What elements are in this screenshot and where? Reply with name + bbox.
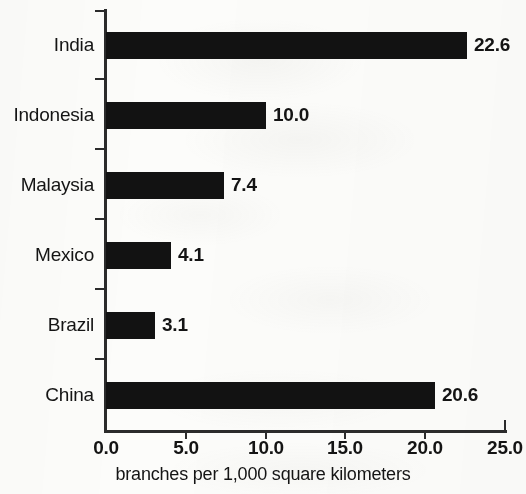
category-label-malaysia: Malaysia bbox=[21, 174, 94, 196]
bar-india bbox=[106, 32, 467, 59]
bar-brazil bbox=[106, 312, 155, 339]
y-axis-tick bbox=[95, 358, 105, 360]
x-axis-tick-label: 15.0 bbox=[327, 437, 363, 459]
x-axis-tick-label: 20.0 bbox=[407, 437, 443, 459]
y-axis-tick bbox=[95, 78, 105, 80]
bar-malaysia bbox=[106, 172, 224, 199]
bar-value-label: 10.0 bbox=[273, 104, 309, 126]
category-label-mexico: Mexico bbox=[35, 244, 94, 266]
bar-mexico bbox=[106, 242, 171, 269]
bar-value-label: 20.6 bbox=[442, 384, 478, 406]
x-axis-tick-label: 0.0 bbox=[93, 437, 119, 459]
x-axis-title: branches per 1,000 square kilometers bbox=[0, 464, 526, 485]
y-axis-tick bbox=[95, 148, 105, 150]
bar-value-label: 4.1 bbox=[178, 244, 204, 266]
category-label-brazil: Brazil bbox=[48, 314, 94, 336]
bar-value-label: 7.4 bbox=[231, 174, 257, 196]
category-label-indonesia: Indonesia bbox=[13, 104, 94, 126]
y-axis-tick bbox=[95, 10, 105, 12]
x-axis-tick bbox=[504, 420, 506, 431]
y-axis-tick bbox=[95, 218, 105, 220]
y-axis-tick bbox=[95, 288, 105, 290]
category-label-china: China bbox=[45, 384, 94, 406]
bar-chart-figure: 22.6India10.0Indonesia7.4Malaysia4.1Mexi… bbox=[0, 0, 526, 494]
bar-china bbox=[106, 382, 435, 409]
plot-area: 22.6India10.0Indonesia7.4Malaysia4.1Mexi… bbox=[0, 0, 526, 494]
x-axis-tick bbox=[105, 420, 107, 431]
category-label-india: India bbox=[54, 34, 94, 56]
bar-indonesia bbox=[106, 102, 266, 129]
x-axis-tick-label: 5.0 bbox=[173, 437, 199, 459]
y-axis-line bbox=[104, 9, 107, 433]
bar-value-label: 3.1 bbox=[162, 314, 188, 336]
bar-value-label: 22.6 bbox=[474, 34, 510, 56]
x-axis-tick-label: 10.0 bbox=[248, 437, 284, 459]
x-axis-line bbox=[104, 430, 507, 433]
x-axis-tick-label: 25.0 bbox=[487, 437, 523, 459]
